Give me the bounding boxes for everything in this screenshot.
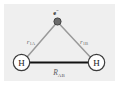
distance-label-electron-to-b: r1B — [80, 38, 88, 47]
distance-subscript-b: 1B — [83, 41, 88, 46]
distance-label-electron-to-a: r1A — [27, 38, 36, 47]
electron-label: e− — [53, 8, 59, 16]
atom-label-a: H — [18, 58, 25, 68]
diagram-canvas: H H e− r1A r1B RAB — [4, 4, 115, 81]
atom-label-b: H — [93, 58, 100, 68]
diagram-panel: H H e− r1A r1B RAB — [4, 4, 115, 81]
bond-subscript: AB — [58, 73, 66, 78]
distance-subscript-a: 1A — [30, 41, 36, 46]
electron-charge-superscript: − — [56, 8, 59, 13]
figure-root: H H e− r1A r1B RAB — [0, 0, 120, 88]
bond-length-label: RAB — [52, 68, 65, 78]
electron-dot-icon — [54, 18, 61, 25]
